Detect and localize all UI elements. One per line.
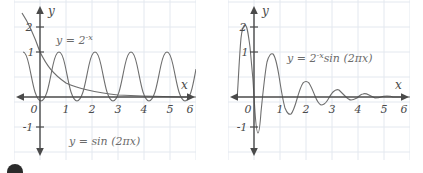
x-tick-label-5: 5	[167, 103, 174, 116]
x-axis-label: x	[181, 78, 188, 92]
x-tick-label-0: 0	[245, 103, 252, 116]
y-axis-left	[36, 6, 44, 156]
y-tick-label-neg1: -1	[237, 121, 248, 134]
y-tick-label-2: 2	[239, 21, 247, 34]
y-tick-label-2: 2	[25, 21, 33, 34]
x-axis-right	[230, 93, 409, 101]
y-axis-label: y	[47, 4, 55, 18]
y-axis-right	[250, 6, 258, 156]
curve-label-exponential: y = 2-x	[55, 33, 93, 47]
chart-panel-right: 2 1 -1 0 1 2 3 4 5 6 y x y = 2-xsin (2πx…	[228, 0, 410, 160]
y-tick-label-1: 1	[242, 46, 249, 59]
x-axis-label: x	[395, 78, 402, 92]
y-axis-label: y	[261, 4, 269, 18]
x-tick-label-6: 6	[187, 103, 194, 116]
y-tick-label-1: 1	[28, 46, 35, 59]
figure-container: 2 1 -1 0 1 2 3 4 5 6 y x y = 2-x y = sin…	[0, 0, 423, 173]
x-tick-label-4: 4	[354, 103, 362, 116]
curve-label-sine: y = sin (2πx)	[68, 135, 140, 148]
curve-label-damped-sine: y = 2-xsin (2πx)	[286, 51, 372, 65]
corner-bullet-icon	[7, 164, 23, 173]
x-tick-label-5: 5	[381, 103, 388, 116]
grid-lines-right	[228, 0, 410, 160]
x-tick-label-3: 3	[329, 103, 336, 116]
x-tick-label-1: 1	[277, 103, 284, 116]
chart-panel-left: 2 1 -1 0 1 2 3 4 5 6 y x y = 2-x y = sin…	[14, 0, 196, 160]
x-tick-label-2: 2	[88, 103, 96, 116]
x-tick-label-4: 4	[140, 103, 148, 116]
x-tick-label-6: 6	[401, 103, 408, 116]
x-tick-label-1: 1	[63, 103, 70, 116]
y-tick-label-neg1: -1	[23, 121, 34, 134]
x-tick-label-2: 2	[302, 103, 310, 116]
x-tick-label-0: 0	[31, 103, 38, 116]
x-tick-label-3: 3	[115, 103, 122, 116]
